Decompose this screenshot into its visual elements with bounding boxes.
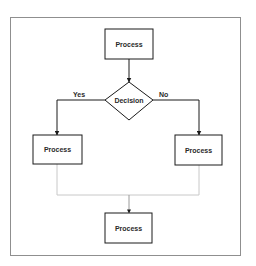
node-process-right[interactable]: Process: [175, 135, 222, 165]
node-process-bottom[interactable]: Process: [105, 213, 152, 243]
node-process-left[interactable]: Process: [33, 135, 82, 164]
node-decision[interactable]: Decision: [105, 82, 153, 120]
node-label: Process: [115, 225, 142, 232]
edge-decision-to-process-right: No: [153, 91, 199, 135]
node-label: Process: [185, 147, 212, 154]
edge-label-yes: Yes: [73, 91, 85, 98]
edge-label-no: No: [159, 91, 168, 98]
edge-merge-to-process-bottom: [57, 164, 199, 213]
edge-decision-to-process-left: Yes: [57, 91, 105, 135]
node-process-top[interactable]: Process: [105, 29, 153, 59]
node-label: Process: [115, 41, 142, 48]
flowchart-canvas: Yes No Process Decision Process Process …: [0, 0, 256, 266]
node-label: Decision: [114, 97, 143, 104]
node-label: Process: [44, 146, 71, 153]
